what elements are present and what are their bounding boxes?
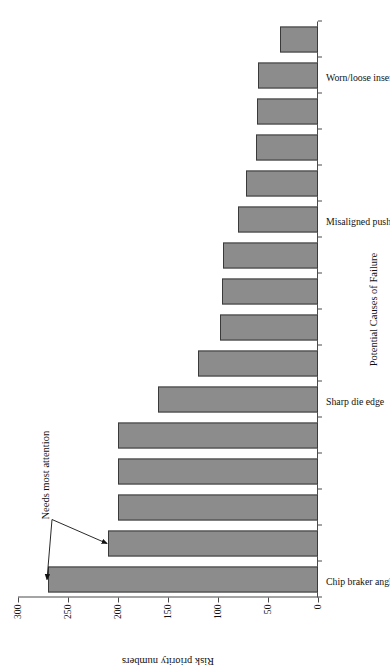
category-tick bbox=[318, 128, 322, 129]
bar-slot bbox=[18, 201, 318, 237]
category-label: Worn/loose insert bbox=[326, 71, 390, 82]
value-tick bbox=[168, 597, 169, 602]
category-tick bbox=[318, 560, 322, 561]
bar bbox=[246, 170, 318, 197]
value-axis-title: Risk priority numbers bbox=[122, 656, 214, 667]
category-tick bbox=[318, 416, 322, 417]
value-tick bbox=[268, 597, 269, 602]
category-tick bbox=[318, 452, 322, 453]
value-tick-label: 150 bbox=[163, 604, 173, 619]
value-tick-label: 50 bbox=[263, 604, 273, 614]
category-label: Sharp die edge bbox=[326, 395, 384, 406]
category-tick bbox=[318, 272, 322, 273]
value-tick-label: 100 bbox=[213, 604, 223, 619]
bar bbox=[223, 242, 318, 269]
category-tick bbox=[318, 524, 322, 525]
bar-slot bbox=[18, 273, 318, 309]
category-tick bbox=[318, 488, 322, 489]
value-tick-label: 300 bbox=[13, 604, 23, 619]
bar bbox=[48, 566, 318, 593]
bar bbox=[198, 350, 318, 377]
bar-slot bbox=[18, 489, 318, 525]
rotated-chart-container: Risk priority numbers Potential Causes o… bbox=[0, 0, 390, 669]
category-label: Chip braker angle ground incorrectly bbox=[326, 575, 390, 586]
bar bbox=[257, 98, 318, 125]
value-tick-label: 200 bbox=[113, 604, 123, 619]
bar bbox=[280, 26, 318, 53]
category-tick bbox=[318, 56, 322, 57]
bar-slot bbox=[18, 561, 318, 597]
value-tick bbox=[318, 597, 319, 602]
bar-slot bbox=[18, 381, 318, 417]
bar-slot bbox=[18, 345, 318, 381]
bar bbox=[258, 62, 318, 89]
category-tick bbox=[318, 164, 322, 165]
bar-slot bbox=[18, 237, 318, 273]
bar-slot bbox=[18, 21, 318, 57]
bar-slot bbox=[18, 165, 318, 201]
bar-slot bbox=[18, 93, 318, 129]
plot-area: 050100150200250300 bbox=[18, 21, 318, 597]
bar-slot bbox=[18, 129, 318, 165]
bar bbox=[118, 458, 318, 485]
bar-chart: Risk priority numbers Potential Causes o… bbox=[0, 0, 390, 669]
value-tick bbox=[118, 597, 119, 602]
category-axis-title: Potential Causes of Failure bbox=[368, 252, 379, 365]
category-label: Misaligned pusher bbox=[326, 215, 390, 226]
value-tick bbox=[68, 597, 69, 602]
bar-slot bbox=[18, 453, 318, 489]
bar bbox=[256, 134, 318, 161]
bar-slot bbox=[18, 309, 318, 345]
value-tick bbox=[218, 597, 219, 602]
bar bbox=[118, 422, 318, 449]
annotation-label: Needs most attention bbox=[40, 430, 51, 519]
bar bbox=[238, 206, 318, 233]
category-tick bbox=[318, 236, 322, 237]
category-tick bbox=[318, 20, 322, 21]
scanned-chart-page: Risk priority numbers Potential Causes o… bbox=[0, 0, 390, 669]
value-tick-label: 250 bbox=[63, 604, 73, 619]
category-tick bbox=[318, 380, 322, 381]
category-tick bbox=[318, 200, 322, 201]
category-tick bbox=[318, 596, 322, 597]
bar bbox=[222, 278, 318, 305]
category-tick bbox=[318, 92, 322, 93]
bar-slot bbox=[18, 417, 318, 453]
category-tick bbox=[318, 344, 322, 345]
value-tick-label: 0 bbox=[313, 604, 323, 609]
bar bbox=[158, 386, 318, 413]
bar bbox=[118, 494, 318, 521]
bar-series bbox=[18, 21, 318, 597]
bar bbox=[220, 314, 318, 341]
value-tick bbox=[18, 597, 19, 602]
bar-slot bbox=[18, 57, 318, 93]
bar-slot bbox=[18, 525, 318, 561]
bar bbox=[108, 530, 318, 557]
category-tick bbox=[318, 308, 322, 309]
